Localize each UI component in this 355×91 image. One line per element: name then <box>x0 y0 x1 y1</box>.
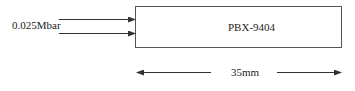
dimension-label: 35mm <box>231 66 259 78</box>
block-label: PBX-9404 <box>228 21 275 33</box>
diagram-canvas <box>0 0 355 91</box>
pressure-label: 0.025Mbar <box>12 19 61 31</box>
